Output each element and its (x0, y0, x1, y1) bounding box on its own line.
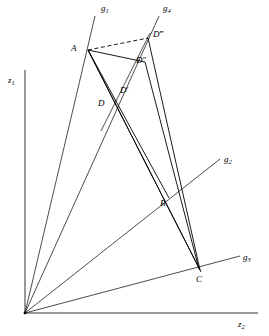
ray-label-g1: g1 (101, 4, 109, 13)
point-label-D: D (98, 99, 105, 108)
geometry-figure (0, 0, 269, 336)
segment-A-dashed-Dppp (88, 38, 148, 50)
segment-D-Dppp (101, 33, 150, 131)
point-label-D-double-prime: D″ (136, 56, 146, 65)
segment-A-Dp-C (88, 50, 201, 272)
segment-Dpp-C (145, 62, 199, 269)
ray-label-g3: g3 (243, 253, 251, 262)
ray-g3 (25, 256, 240, 313)
axes-group (25, 70, 258, 313)
point-label-D-prime: D′ (120, 86, 128, 95)
point-label-A: A (71, 44, 77, 53)
segment-Dppp-C (148, 38, 200, 270)
axis-label-z2: z2 (238, 320, 245, 329)
segment-A-B (88, 50, 169, 198)
vertex-markers (24, 312, 27, 315)
ray-label-g4: g4 (163, 4, 171, 13)
ray-label-g2: g2 (224, 155, 232, 164)
construction-lines (88, 33, 201, 272)
point-label-C: C (196, 275, 202, 284)
point-label-B: B (160, 199, 166, 208)
ray-g1 (25, 16, 95, 313)
rays-group (25, 16, 240, 313)
axis-label-z1: z1 (8, 76, 15, 85)
point-label-D-triple-prime: D‴ (153, 30, 163, 39)
vertex-origin (24, 312, 27, 315)
